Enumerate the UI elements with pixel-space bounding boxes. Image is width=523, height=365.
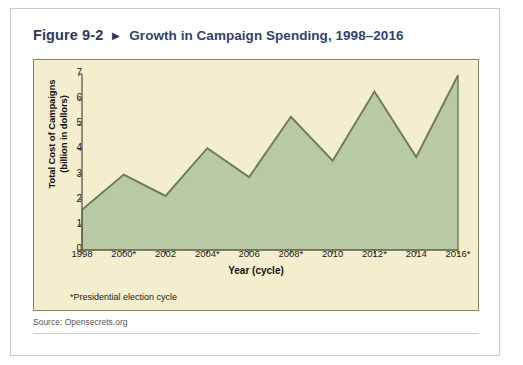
x-axis-tick-label: 2006 bbox=[239, 248, 260, 259]
x-axis-tick-label: 2008* bbox=[278, 248, 303, 259]
x-axis-tick-labels: 19982000*20022004*20062008*20102012*2014… bbox=[34, 248, 478, 262]
x-axis-tick-label: 2004* bbox=[195, 248, 220, 259]
source-divider bbox=[33, 333, 479, 334]
figure-header: Figure 9-2 ▶ Growth in Campaign Spending… bbox=[33, 27, 404, 43]
chart-area-fill bbox=[82, 75, 458, 250]
x-axis-tick-label: 2012* bbox=[362, 248, 387, 259]
x-axis-title: Year (cycle) bbox=[34, 265, 478, 276]
x-axis-tick-label: 2014 bbox=[406, 248, 427, 259]
chart-footnote: *Presidential election cycle bbox=[70, 292, 177, 302]
x-axis-tick-label: 2000* bbox=[111, 248, 136, 259]
x-axis-tick-label: 2016* bbox=[446, 248, 471, 259]
triangle-right-icon: ▶ bbox=[112, 30, 120, 41]
x-axis-tick-label: 2002 bbox=[155, 248, 176, 259]
x-axis-tick-label: 2010 bbox=[322, 248, 343, 259]
chart-panel: Total Cost of Campaigns (billion in doll… bbox=[33, 59, 479, 311]
figure-card: Figure 9-2 ▶ Growth in Campaign Spending… bbox=[10, 8, 500, 356]
page-title: Growth in Campaign Spending, 1998–2016 bbox=[129, 28, 403, 43]
source-note: Source: Opensecrets.org bbox=[33, 317, 128, 327]
figure-number: Figure 9-2 bbox=[33, 27, 103, 43]
x-axis-tick-label: 1998 bbox=[71, 248, 92, 259]
